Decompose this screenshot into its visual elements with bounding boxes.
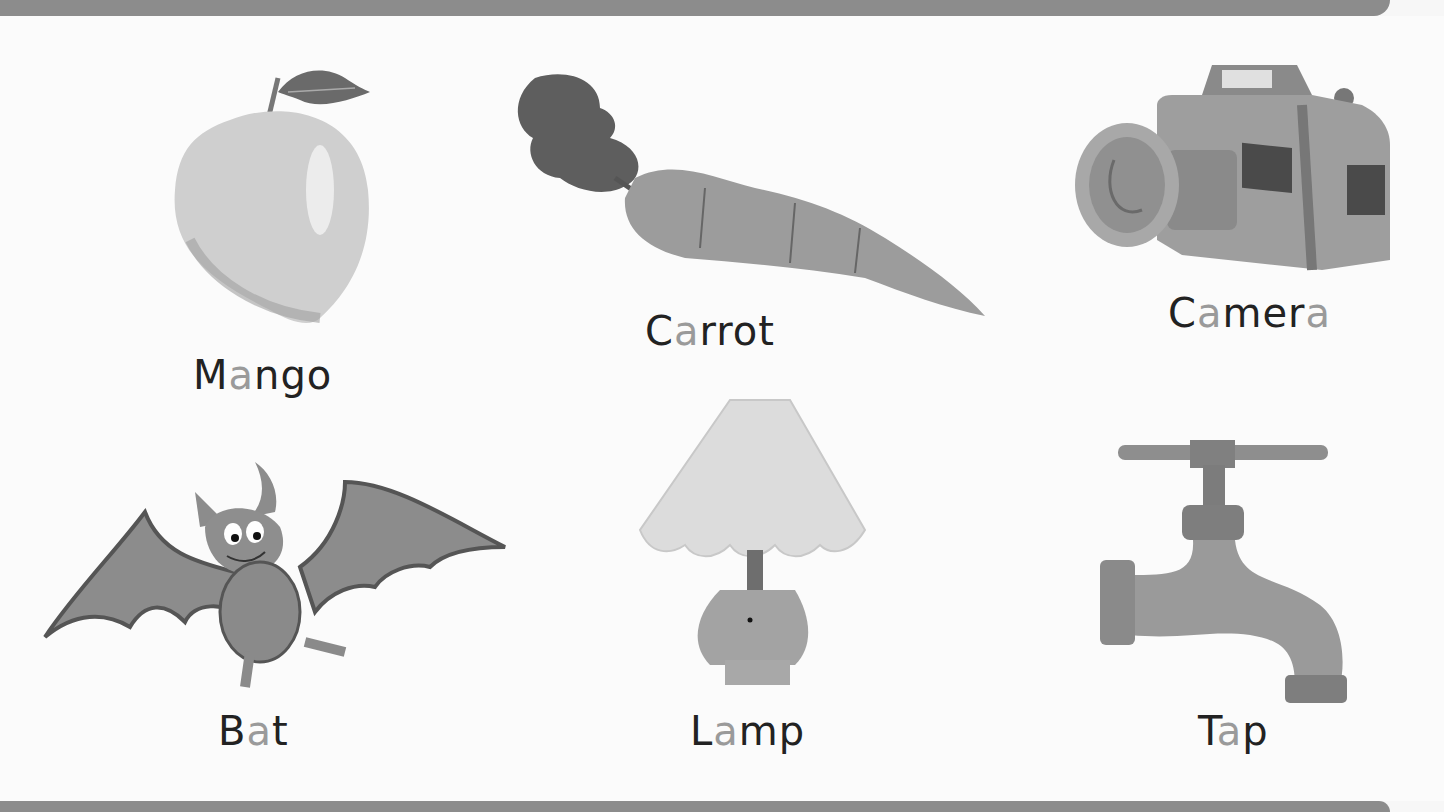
word-mango: Mango (193, 352, 332, 398)
word-camera: Camera (1168, 290, 1331, 336)
camera-icon (1072, 60, 1397, 275)
word-bat: Bat (218, 708, 289, 754)
tap-icon (1100, 435, 1380, 705)
word-carrot: Carrot (645, 308, 775, 354)
bat-icon (45, 452, 510, 697)
carrot-icon (505, 68, 995, 323)
bottom-border-band (0, 801, 1390, 812)
top-border-band (0, 0, 1390, 16)
word-lamp: Lamp (690, 708, 805, 754)
word-tap: Tap (1198, 708, 1269, 754)
lamp-icon (635, 395, 865, 695)
mango-icon (170, 50, 380, 330)
